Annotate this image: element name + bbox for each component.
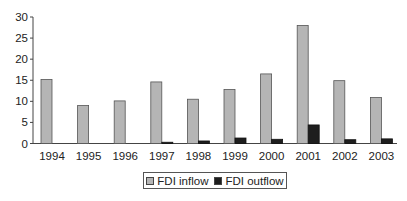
y-tick-label: 0 <box>22 138 28 150</box>
bar-fdi-inflow <box>224 90 235 144</box>
x-tick-label: 1997 <box>149 150 175 162</box>
legend-item-fdi-outflow: FDI outflow <box>214 175 283 187</box>
x-tick-label: 1996 <box>112 150 138 162</box>
x-tick-label: 1994 <box>39 150 65 162</box>
bar-fdi-outflow <box>162 142 173 143</box>
bar-fdi-outflow <box>381 139 392 144</box>
bar-fdi-inflow <box>41 79 52 143</box>
bar-fdi-outflow <box>198 141 209 144</box>
legend-swatch-inflow <box>146 177 154 185</box>
bar-fdi-inflow <box>78 106 89 144</box>
y-tick-label: 10 <box>15 95 28 107</box>
y-axis: 051015202530 <box>15 11 33 150</box>
x-tick-label: 2002 <box>332 150 358 162</box>
y-tick-label: 5 <box>22 116 28 128</box>
bar-chart: 051015202530 199419951996199719981999200… <box>0 0 407 201</box>
bar-fdi-inflow <box>370 98 381 144</box>
x-tick-label: 2000 <box>259 150 285 162</box>
bar-fdi-inflow <box>297 25 308 143</box>
y-tick-label: 30 <box>15 11 28 23</box>
x-tick-label: 2001 <box>295 150 321 162</box>
bar-fdi-inflow <box>151 82 162 144</box>
bar-fdi-outflow <box>345 140 356 144</box>
bar-fdi-inflow <box>187 99 198 143</box>
legend-swatch-outflow <box>214 177 222 185</box>
x-tick-label: 1995 <box>76 150 102 162</box>
x-tick-label: 1999 <box>222 150 248 162</box>
legend-item-fdi-inflow: FDI inflow <box>146 175 208 187</box>
bar-fdi-inflow <box>261 74 272 144</box>
bar-fdi-outflow <box>308 125 319 144</box>
legend: FDI inflow FDI outflow <box>143 172 287 189</box>
bar-fdi-inflow <box>334 81 345 144</box>
bars <box>41 25 392 143</box>
bar-fdi-outflow <box>235 138 246 143</box>
y-tick-label: 20 <box>15 53 28 65</box>
bar-fdi-inflow <box>114 101 125 144</box>
legend-label-outflow: FDI outflow <box>225 175 283 187</box>
y-tick-label: 15 <box>15 74 28 86</box>
y-tick-label: 25 <box>15 32 28 44</box>
bar-fdi-outflow <box>272 139 283 143</box>
legend-label-inflow: FDI inflow <box>157 175 208 187</box>
x-tick-label: 2003 <box>369 150 395 162</box>
x-tick-label: 1998 <box>186 150 212 162</box>
x-axis: 1994199519961997199819992000200120022003 <box>33 144 397 163</box>
